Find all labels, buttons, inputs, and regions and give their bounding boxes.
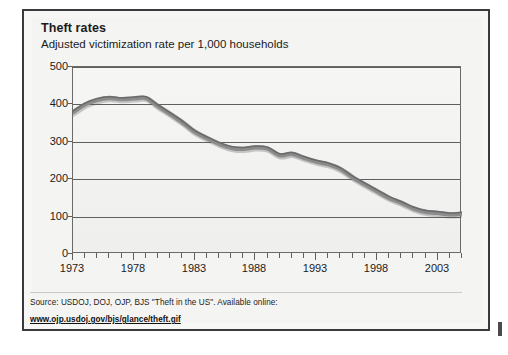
series-edge-0 bbox=[73, 96, 462, 213]
chart-plot-area bbox=[72, 66, 461, 253]
x-tick-1974 bbox=[84, 253, 85, 258]
x-tick-label-1993: 1993 bbox=[303, 262, 327, 274]
x-tick-1989 bbox=[267, 253, 268, 258]
x-tick-label-1978: 1978 bbox=[121, 262, 145, 274]
source-url-link[interactable]: www.ojp.usdoj.gov/bjs/glance/theft.gif bbox=[30, 315, 181, 325]
x-tick-label-2003: 2003 bbox=[425, 262, 449, 274]
x-tick-1981 bbox=[169, 253, 170, 258]
x-tick-1996 bbox=[352, 253, 353, 258]
x-tick-1985 bbox=[218, 253, 219, 258]
y-tick-label-400: 400 bbox=[34, 98, 68, 109]
chart-title-block: Theft rates Adjusted victimization rate … bbox=[41, 21, 421, 51]
x-tick-2002 bbox=[425, 253, 426, 258]
x-tick-1978 bbox=[133, 253, 134, 260]
x-tick-2005 bbox=[461, 253, 462, 258]
x-tick-1990 bbox=[279, 253, 280, 258]
x-tick-label-1983: 1983 bbox=[182, 262, 206, 274]
x-tick-1992 bbox=[303, 253, 304, 258]
y-tick-label-0: 0 bbox=[34, 248, 68, 259]
x-tick-2001 bbox=[412, 253, 413, 258]
x-tick-1986 bbox=[230, 253, 231, 258]
x-tick-1998 bbox=[376, 253, 377, 260]
x-tick-label-1988: 1988 bbox=[242, 262, 266, 274]
source-divider bbox=[30, 292, 462, 293]
x-tick-1993 bbox=[315, 253, 316, 260]
page-title: Theft rates bbox=[41, 21, 421, 35]
x-tick-1976 bbox=[108, 253, 109, 258]
x-axis-ticks bbox=[72, 253, 461, 260]
y-tick-label-500: 500 bbox=[34, 61, 68, 72]
x-tick-1977 bbox=[121, 253, 122, 258]
x-tick-1995 bbox=[339, 253, 340, 258]
x-tick-1999 bbox=[388, 253, 389, 258]
page-edge-marker bbox=[498, 322, 502, 336]
x-axis-labels: 1973197819831988199319982003 bbox=[72, 262, 472, 278]
chart-subtitle: Adjusted victimization rate per 1,000 ho… bbox=[41, 37, 421, 51]
x-tick-1994 bbox=[327, 253, 328, 258]
source-block: Source: USDOJ, DOJ, OJP, BJS "Theft in t… bbox=[30, 298, 460, 326]
x-tick-1984 bbox=[206, 253, 207, 258]
x-tick-label-1998: 1998 bbox=[364, 262, 388, 274]
x-tick-1979 bbox=[145, 253, 146, 258]
theft-rate-line-series bbox=[73, 67, 462, 254]
x-tick-1997 bbox=[364, 253, 365, 258]
x-tick-1975 bbox=[96, 253, 97, 258]
x-tick-1973 bbox=[72, 253, 73, 260]
x-tick-2000 bbox=[400, 253, 401, 258]
chart-plot-wrapper bbox=[72, 66, 461, 253]
y-axis-labels: 0100200300400500 bbox=[30, 66, 68, 253]
x-tick-1983 bbox=[194, 253, 195, 260]
x-tick-2004 bbox=[449, 253, 450, 258]
x-tick-2003 bbox=[437, 253, 438, 260]
y-tick-label-300: 300 bbox=[34, 136, 68, 147]
x-tick-1987 bbox=[242, 253, 243, 258]
y-tick-label-100: 100 bbox=[34, 211, 68, 222]
series-line-0 bbox=[73, 98, 462, 215]
series-shadow-0 bbox=[74, 99, 462, 216]
x-tick-1982 bbox=[181, 253, 182, 258]
figure-page: Theft rates Adjusted victimization rate … bbox=[0, 0, 508, 355]
x-tick-1988 bbox=[254, 253, 255, 260]
source-text: Source: USDOJ, DOJ, OJP, BJS "Theft in t… bbox=[30, 298, 460, 308]
x-tick-1991 bbox=[291, 253, 292, 258]
y-tick-label-200: 200 bbox=[34, 173, 68, 184]
x-tick-label-1973: 1973 bbox=[60, 262, 84, 274]
x-tick-1980 bbox=[157, 253, 158, 258]
